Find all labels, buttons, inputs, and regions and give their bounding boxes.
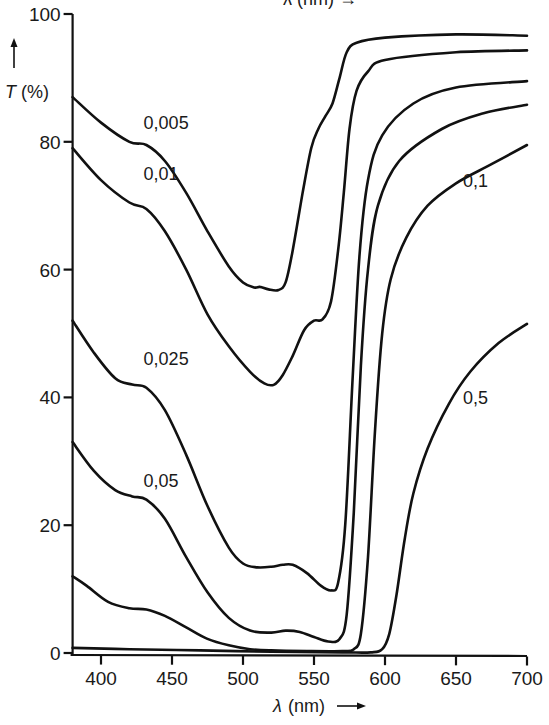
curve-0-025: [73, 81, 527, 590]
x-axis-symbol: λ: [272, 696, 282, 716]
x-axis-unit: (nm): [288, 696, 325, 716]
x-tick-label: 550: [298, 668, 330, 689]
curve-label: 0,005: [144, 113, 189, 133]
y-axis: 020406080100: [29, 4, 73, 664]
y-axis-unit: (%): [21, 82, 49, 102]
y-axis-title: T (%): [5, 38, 49, 102]
y-axis-arrowhead-icon: [11, 38, 18, 47]
curves: [73, 34, 527, 652]
transmittance-chart: λ (nm) → 020406080100 400450500550600650…: [0, 0, 549, 725]
curve-0-1: [73, 145, 527, 651]
y-tick-label: 20: [39, 515, 60, 536]
top-cropped-label-text: λ (nm) →: [283, 0, 357, 9]
curve-0-05: [73, 105, 527, 642]
curve-label: 0,05: [144, 471, 179, 491]
y-tick-label: 100: [29, 4, 61, 25]
curve-label: 0,01: [144, 164, 179, 184]
x-tick-label: 650: [440, 668, 472, 689]
x-axis: 400450500550600650700: [71, 655, 543, 689]
y-tick-label: 80: [39, 132, 60, 153]
curve-0-01: [73, 50, 527, 385]
x-tick-label: 400: [85, 668, 117, 689]
curve-0-5: [73, 324, 527, 653]
x-tick-label: 600: [369, 668, 401, 689]
curve-labels: 0,0050,010,0250,050,10,5: [144, 113, 489, 491]
y-axis-symbol: T: [5, 82, 18, 102]
x-axis-line: [71, 655, 527, 656]
curve-0-005: [73, 34, 527, 290]
y-tick-label: 40: [39, 387, 60, 408]
x-tick-label: 450: [156, 668, 188, 689]
y-tick-label: 0: [50, 643, 61, 664]
curve-label: 0,025: [144, 349, 189, 369]
y-tick-label: 60: [39, 260, 60, 281]
curve-label: 0,1: [463, 171, 488, 191]
x-tick-label: 700: [511, 668, 543, 689]
top-cropped-label: λ (nm) →: [283, 0, 357, 9]
curve-label: 0,5: [463, 388, 488, 408]
x-tick-label: 500: [227, 668, 259, 689]
x-axis-title: λ (nm): [272, 696, 366, 716]
x-axis-arrowhead-icon: [357, 703, 366, 710]
